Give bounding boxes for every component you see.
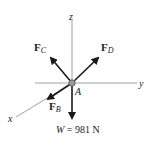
z-axis-label: z	[68, 11, 73, 22]
force-fb-arrow	[48, 83, 72, 99]
point-a-label: A	[74, 86, 82, 97]
weight-label: W = 981 N	[56, 124, 100, 135]
free-body-diagram: z y x A FC FD FB W = 981 N	[0, 0, 156, 149]
force-fd-arrow	[72, 58, 98, 83]
force-fd-label: FD	[101, 41, 114, 55]
force-fb-label: FB	[49, 100, 61, 114]
force-fc-arrow	[51, 58, 72, 83]
x-axis-label: x	[7, 113, 13, 124]
force-fc-label: FC	[34, 41, 47, 55]
y-axis-label: y	[138, 78, 144, 89]
